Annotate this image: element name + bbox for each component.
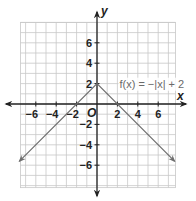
x-tick-label: 2: [114, 108, 120, 120]
y-tick-label: −6: [79, 159, 92, 171]
grid: [21, 22, 176, 187]
x-tick-label: −4: [46, 108, 59, 120]
origin-label: O: [87, 106, 97, 120]
y-axis-label: y: [100, 4, 109, 18]
x-axis-label: x: [176, 89, 185, 103]
x-tick-label: −6: [26, 108, 39, 120]
y-tick-label: −2: [79, 118, 92, 130]
y-tick-label: −4: [79, 139, 92, 151]
function-label: f(x) = −|x| + 2: [119, 78, 184, 90]
axes: [6, 12, 186, 196]
x-tick-label: 4: [135, 108, 142, 120]
y-tick-label: 4: [86, 57, 93, 69]
x-tick-label: 6: [155, 108, 161, 120]
y-tick-label: 2: [86, 78, 92, 90]
coordinate-plane: −6−4−2246642−2−4−6 y x O f(x) = −|x| + 2: [0, 0, 196, 201]
x-tick-label: −2: [66, 108, 79, 120]
y-tick-label: 6: [86, 37, 92, 49]
